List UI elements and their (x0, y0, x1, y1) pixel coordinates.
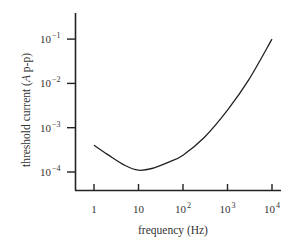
x-axis-label: frequency (Hz) (138, 224, 208, 237)
data-line (94, 39, 272, 170)
y-tick-label: 10−3 (40, 120, 61, 134)
y-axis-label: threshold current (A p-p) (20, 53, 33, 167)
axes (75, 13, 281, 191)
x-ticks: 110102103104 (91, 184, 280, 215)
x-tick-label: 103 (220, 201, 236, 215)
chart: 110102103104 10−110−210−310−4 frequency … (0, 0, 297, 246)
y-tick-label: 10−2 (40, 75, 61, 89)
x-tick-label: 102 (175, 201, 191, 215)
y-tick-label: 10−1 (40, 31, 61, 45)
x-tick-label: 10 (133, 203, 145, 215)
x-tick-label: 104 (264, 201, 280, 215)
y-ticks: 10−110−210−310−4 (40, 31, 75, 178)
y-tick-label: 10−4 (40, 164, 61, 178)
x-tick-label: 1 (91, 203, 97, 215)
